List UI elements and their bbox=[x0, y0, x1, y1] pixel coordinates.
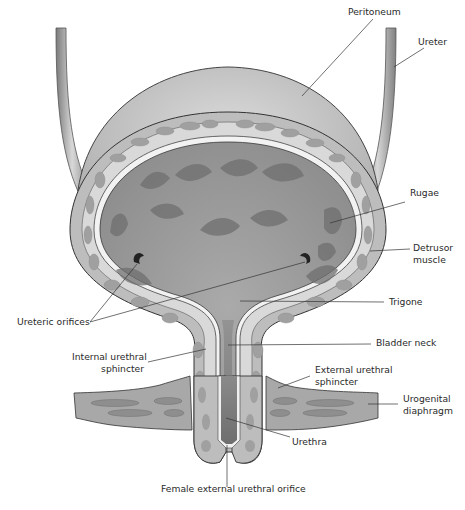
label-urogenital-line1: Urogenital bbox=[403, 393, 453, 405]
label-trigone: Trigone bbox=[389, 296, 423, 308]
label-internal-sphincter-line1: Internal urethral bbox=[72, 351, 144, 363]
label-internal-sphincter-line2: sphincter bbox=[72, 363, 144, 375]
label-internal-urethral-sphincter: Internal urethral sphincter bbox=[72, 351, 144, 375]
label-detrusor-line1: Detrusor bbox=[413, 242, 453, 254]
label-urethra: Urethra bbox=[292, 436, 327, 448]
label-detrusor-muscle: Detrusor muscle bbox=[413, 242, 453, 266]
label-female-external-urethral-orifice: Female external urethral orifice bbox=[161, 483, 306, 495]
label-ureteric-orifices: Ureteric orifices bbox=[17, 316, 90, 328]
label-bladder-neck: Bladder neck bbox=[376, 337, 436, 349]
label-urogenital-diaphragm: Urogenital diaphragm bbox=[403, 393, 453, 417]
label-detrusor-line2: muscle bbox=[413, 254, 453, 266]
label-external-sphincter-line1: External urethral bbox=[315, 364, 392, 376]
label-rugae: Rugae bbox=[410, 187, 439, 199]
label-external-urethral-sphincter: External urethral sphincter bbox=[315, 364, 392, 388]
label-peritoneum: Peritoneum bbox=[348, 6, 401, 18]
label-ureter: Ureter bbox=[418, 36, 447, 48]
bladder-diagram bbox=[0, 0, 465, 510]
label-external-sphincter-line2: sphincter bbox=[315, 376, 392, 388]
label-urogenital-line2: diaphragm bbox=[403, 405, 453, 417]
